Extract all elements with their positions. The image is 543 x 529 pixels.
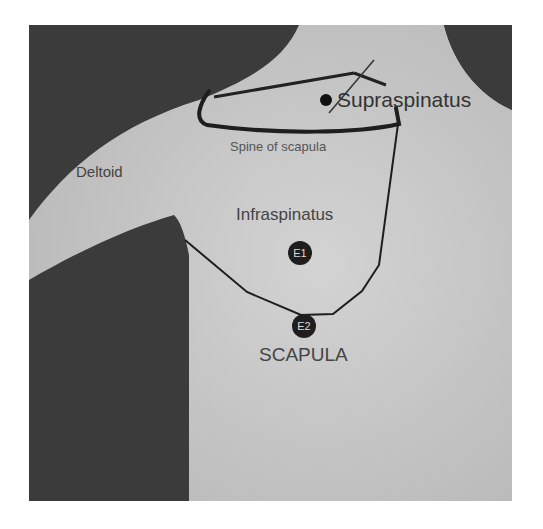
- label-deltoid: Deltoid: [76, 164, 123, 179]
- shoulder-diagram: Supraspinatus Spine of scapula Deltoid I…: [29, 25, 512, 501]
- label-supraspinatus: Supraspinatus: [337, 89, 471, 110]
- electrode-e2: E2: [292, 314, 316, 338]
- label-spine-of-scapula: Spine of scapula: [230, 140, 326, 153]
- electrode-e1: E1: [288, 241, 312, 265]
- supraspinatus-point: [320, 94, 332, 106]
- label-infraspinatus: Infraspinatus: [236, 206, 333, 223]
- label-scapula: SCAPULA: [259, 345, 348, 364]
